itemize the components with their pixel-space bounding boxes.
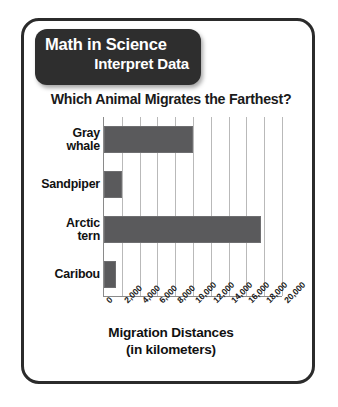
bar xyxy=(104,261,116,289)
header-title-primary: Math in Science xyxy=(45,34,191,54)
chart-plot-wrapper: GraywhaleSandpiperArcticternCaribou 02,0… xyxy=(24,117,318,317)
bar xyxy=(104,216,261,244)
category-label: Arctictern xyxy=(26,217,100,243)
gridline xyxy=(282,117,283,296)
header-banner: Math in Science Interpret Data xyxy=(35,29,201,85)
category-label: Sandpiper xyxy=(26,178,100,191)
gridline xyxy=(229,117,230,296)
category-label: Caribou xyxy=(26,268,100,281)
gridline xyxy=(211,117,212,296)
bar xyxy=(104,171,122,199)
axis-caption-line2: (in kilometers) xyxy=(24,341,318,358)
worksheet-card: Math in Science Interpret Data Which Ani… xyxy=(21,18,315,384)
axis-caption-line1: Migration Distances xyxy=(24,324,318,341)
plot-area xyxy=(103,117,282,297)
gridline xyxy=(246,117,247,296)
gridline xyxy=(193,117,194,296)
chart-title: Which Animal Migrates the Farthest? xyxy=(24,91,318,107)
category-axis-labels: GraywhaleSandpiperArcticternCaribou xyxy=(26,117,100,297)
bar xyxy=(104,126,193,154)
header-title-secondary: Interpret Data xyxy=(45,54,191,74)
gridline xyxy=(264,117,265,296)
axis-caption: Migration Distances (in kilometers) xyxy=(24,324,318,358)
category-label: Graywhale xyxy=(26,127,100,153)
